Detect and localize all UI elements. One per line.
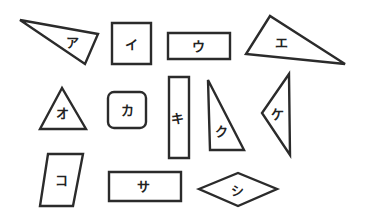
label-shi: シ bbox=[231, 184, 244, 197]
shapes-figure: ア イ ウ エ オ カ キ ク ケ コ サ シ bbox=[0, 0, 366, 221]
label-a: ア bbox=[66, 36, 79, 49]
label-ko: コ bbox=[55, 174, 68, 187]
label-e: エ bbox=[275, 36, 288, 49]
label-i: イ bbox=[125, 38, 138, 51]
label-ke: ケ bbox=[271, 108, 284, 121]
label-sa: サ bbox=[137, 180, 150, 193]
shape-e-triangle bbox=[246, 16, 345, 64]
label-ku: ク bbox=[215, 125, 228, 138]
label-ki: キ bbox=[171, 112, 184, 125]
shape-ku-triangle bbox=[208, 80, 244, 150]
label-o: オ bbox=[56, 107, 69, 120]
label-u: ウ bbox=[192, 40, 205, 53]
shape-a-triangle bbox=[20, 20, 98, 64]
label-ka: カ bbox=[121, 104, 134, 117]
